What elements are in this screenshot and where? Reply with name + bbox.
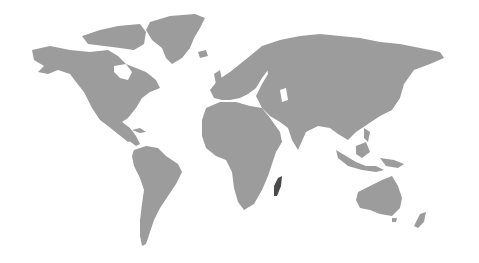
- greenland: [146, 14, 205, 64]
- borneo: [356, 142, 370, 158]
- north-america: [32, 46, 160, 142]
- philippines: [364, 128, 370, 142]
- world-map: [0, 0, 479, 263]
- new-guinea: [380, 158, 404, 168]
- central-america: [120, 122, 140, 146]
- tasmania: [392, 218, 397, 222]
- new-zealand: [414, 212, 426, 228]
- land-masses: [32, 14, 444, 246]
- iceland: [198, 50, 208, 58]
- madagascar-highlighted: [274, 176, 282, 196]
- caribbean: [132, 128, 146, 133]
- australia: [356, 176, 402, 216]
- highlighted-regions: [274, 176, 282, 196]
- africa: [202, 102, 282, 210]
- arctic-islands: [82, 24, 146, 50]
- south-america: [132, 146, 182, 246]
